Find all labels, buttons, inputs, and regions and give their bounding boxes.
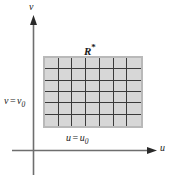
grid-cell [127, 81, 141, 92]
grid-cell [86, 103, 100, 114]
grid-cell [100, 58, 114, 69]
grid-cell [114, 103, 128, 114]
grid-cell [86, 92, 100, 103]
grid-cell [45, 69, 59, 80]
grid-cell [72, 115, 86, 126]
grid-cell [45, 115, 59, 126]
grid-cell [45, 81, 59, 92]
grid-cell [45, 58, 59, 69]
grid-cell [72, 92, 86, 103]
region-r-star-grid [43, 56, 143, 128]
grid-cell [59, 58, 73, 69]
region-label: R* [84, 43, 96, 57]
grid-cell [127, 115, 141, 126]
grid-cell [72, 81, 86, 92]
grid-cell [114, 81, 128, 92]
grid-cell [59, 103, 73, 114]
grid-cell [72, 69, 86, 80]
grid-cell [59, 81, 73, 92]
v-axis-arrowhead-icon [30, 15, 37, 25]
grid-cell [59, 69, 73, 80]
grid-cell [127, 92, 141, 103]
grid-cell [127, 69, 141, 80]
grid-cell [72, 58, 86, 69]
grid-cell [127, 58, 141, 69]
v-axis-label: v [29, 2, 33, 12]
grid-cell [114, 92, 128, 103]
grid-cell [72, 103, 86, 114]
u-constant-line-label: u=u0 [66, 133, 88, 146]
grid-cell [45, 92, 59, 103]
u-axis-label: u [160, 143, 165, 153]
grid-cell [86, 115, 100, 126]
grid-cell [114, 69, 128, 80]
grid-cell [100, 81, 114, 92]
region-label-star: * [91, 42, 96, 52]
grid-cell [59, 115, 73, 126]
grid-cell [86, 58, 100, 69]
grid-cell [114, 58, 128, 69]
u-label-equals: = [73, 132, 79, 143]
grid-cell [86, 81, 100, 92]
uv-plane-figure: R* u=u0 v=v0 v u [0, 0, 174, 179]
grid-cell [59, 92, 73, 103]
grid-cell [86, 69, 100, 80]
grid-cell [114, 115, 128, 126]
v-label-subscript: 0 [22, 100, 26, 109]
grid-cell [127, 103, 141, 114]
v-label-equals: = [10, 95, 16, 106]
v-label-lhs: v [4, 95, 8, 106]
u-axis-arrowhead-icon [147, 147, 157, 154]
u-label-lhs: u [66, 132, 71, 143]
grid-cell [45, 103, 59, 114]
grid-cell [100, 69, 114, 80]
grid-cell [100, 115, 114, 126]
v-constant-line-label: v=v0 [4, 96, 25, 109]
grid-cell [100, 103, 114, 114]
grid-cell [100, 92, 114, 103]
u-label-subscript: 0 [85, 137, 89, 146]
